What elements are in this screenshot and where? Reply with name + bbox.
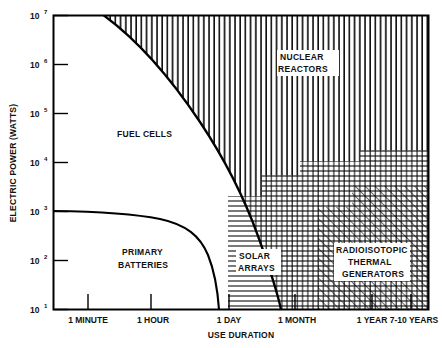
- y-tick-label-6: 10: [30, 11, 40, 21]
- x-tick-label-3: 1 MONTH: [278, 315, 316, 325]
- y-tick-exp-0: 1: [44, 303, 48, 309]
- label-fuel-cells: FUEL CELLS: [117, 129, 172, 139]
- region-label-nuclear-reactors: NUCLEAR REACTORS: [277, 50, 339, 76]
- x-tick-label-2: 1 DAY: [217, 315, 242, 325]
- y-tick-exp-2: 3: [44, 205, 48, 211]
- y-tick-label-4: 10: [30, 109, 40, 119]
- label-rtg-line2: THERMAL: [348, 257, 392, 267]
- region-label-rtg: RADIOISOTOPIC THERMAL GENERATORS: [334, 243, 410, 281]
- y-tick-exp-6: 7: [44, 9, 48, 15]
- y-tick-exp-3: 4: [44, 156, 48, 162]
- x-tick-label-0: 1 MINUTE: [68, 315, 108, 325]
- region-label-fuel-cells: FUEL CELLS: [117, 129, 172, 139]
- y-tick-exp-4: 5: [44, 107, 48, 113]
- label-rtg-line3: GENERATORS: [342, 269, 404, 279]
- region-label-solar-arrays: SOLAR ARRAYS: [236, 249, 281, 275]
- chart-figure: FUEL CELLS PRIMARY BATTERIES NUCLEAR REA…: [0, 0, 442, 348]
- x-tick-labels: 1 MINUTE 1 HOUR 1 DAY 1 MONTH 1 YEAR 7-1…: [68, 315, 438, 325]
- x-tick-label-4: 1 YEAR: [357, 315, 388, 325]
- label-primary-batteries-line1: PRIMARY: [122, 247, 163, 257]
- label-nuclear-line2: REACTORS: [278, 64, 328, 74]
- label-solar-line2: ARRAYS: [238, 263, 275, 273]
- y-tick-label-3: 10: [30, 158, 40, 168]
- y-tick-label-1: 10: [30, 256, 40, 266]
- y-tick-labels: 10 1 10 2 10 3 10 4 10 5 10 6 10 7: [30, 9, 48, 315]
- label-primary-batteries-line2: BATTERIES: [118, 260, 168, 270]
- label-solar-line1: SOLAR: [239, 251, 270, 261]
- label-rtg-line1: RADIOISOTOPIC: [336, 245, 408, 255]
- label-nuclear-line1: NUCLEAR: [280, 52, 324, 62]
- y-tick-exp-1: 2: [44, 254, 48, 260]
- x-tick-label-1: 1 HOUR: [137, 315, 169, 325]
- x-axis-title: USE DURATION: [208, 330, 274, 340]
- y-axis-title: ELECTRIC POWER (WATTS): [8, 104, 18, 223]
- y-tick-label-0: 10: [30, 305, 40, 315]
- y-tick-exp-5: 6: [44, 58, 48, 64]
- x-tick-label-5: 7-10 YEARS: [390, 315, 439, 325]
- y-tick-label-5: 10: [30, 60, 40, 70]
- y-tick-label-2: 10: [30, 207, 40, 217]
- chart-svg: FUEL CELLS PRIMARY BATTERIES NUCLEAR REA…: [0, 0, 442, 348]
